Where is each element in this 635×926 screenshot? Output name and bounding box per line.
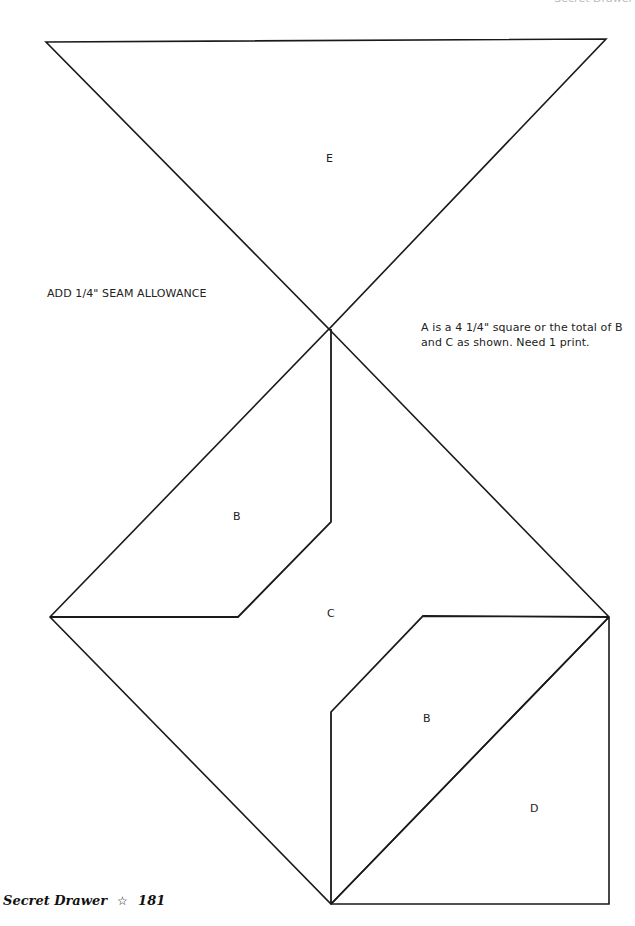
- star-icon: ☆: [117, 894, 128, 908]
- footer-title: Secret Drawer: [3, 893, 107, 908]
- label-c: C: [327, 607, 335, 620]
- quilt-pattern-diagram: [0, 0, 635, 926]
- piece-d-diagonal: [331, 617, 609, 904]
- label-d: D: [530, 802, 538, 815]
- piece-a-note: A is a 4 1/4" square or the total of B a…: [421, 320, 633, 350]
- seam-allowance-note: ADD 1/4" SEAM ALLOWANCE: [47, 286, 207, 301]
- page-footer: Secret Drawer☆181: [3, 893, 165, 908]
- label-b-lower: B: [423, 712, 431, 725]
- label-b-upper: B: [233, 510, 241, 523]
- label-e: E: [326, 152, 333, 165]
- page-number: 181: [138, 893, 165, 908]
